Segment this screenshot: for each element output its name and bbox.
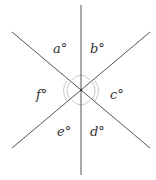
diagram-svg: a° b° c° d° e° f° (0, 0, 156, 180)
angle-label-e: e° (57, 124, 71, 139)
angle-label-b: b° (90, 41, 105, 56)
angle-label-a: a° (53, 41, 67, 56)
arc-f (67, 82, 70, 100)
angle-label-d: d° (90, 124, 105, 139)
arc-c-outer (95, 81, 99, 101)
angle-label-c: c° (110, 87, 124, 102)
angle-diagram: a° b° c° d° e° f° (0, 0, 156, 180)
angle-label-f: f° (35, 87, 47, 102)
intersection-point (80, 89, 82, 91)
arc-f-outer (64, 81, 68, 101)
arc-c (92, 82, 95, 100)
